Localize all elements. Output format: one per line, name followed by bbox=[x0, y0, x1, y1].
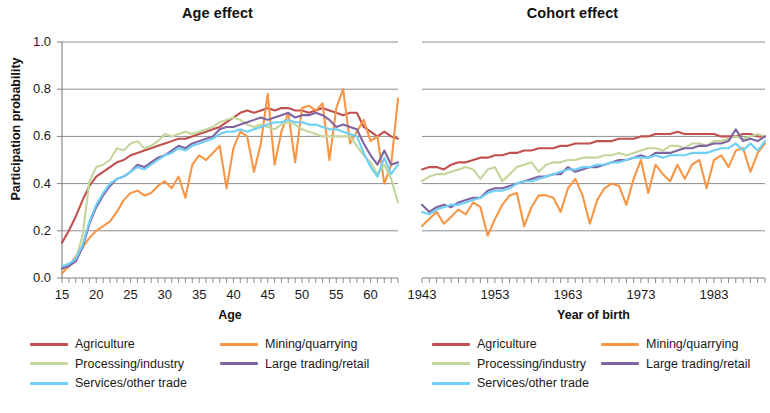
legend-age-effect: AgricultureMining/quarryingProcessing/in… bbox=[30, 338, 410, 390]
figure-root: Age effect Participation probability 0.0… bbox=[0, 0, 770, 413]
series-line-services-other-trade bbox=[62, 120, 398, 266]
chart-panel-cohort-effect: Cohort effect 19431953196319731983 Year … bbox=[405, 0, 770, 330]
x-axis-title-age: Age bbox=[62, 308, 398, 322]
legend-swatch-icon bbox=[30, 343, 68, 346]
legend-swatch-icon bbox=[601, 343, 639, 346]
legend-item-cohort[interactable]: Mining/quarrying bbox=[601, 338, 770, 351]
legend-label: Mining/quarrying bbox=[646, 338, 738, 351]
legend-cohort-effect: AgricultureMining/quarryingProcessing/in… bbox=[432, 338, 770, 390]
legend-swatch-icon bbox=[601, 362, 639, 365]
plot-area-age-effect bbox=[0, 0, 405, 330]
legend-item-cohort[interactable]: Processing/industry bbox=[432, 358, 601, 371]
legend-label: Services/other trade bbox=[477, 377, 589, 390]
legend-label: Processing/industry bbox=[477, 358, 586, 371]
legend-swatch-icon bbox=[432, 362, 470, 365]
legend-label: Processing/industry bbox=[75, 358, 184, 371]
legend-swatch-icon bbox=[220, 362, 258, 365]
chart-panel-age-effect: Age effect Participation probability 0.0… bbox=[0, 0, 405, 330]
legend-label: Mining/quarrying bbox=[265, 338, 357, 351]
legend-label: Large trading/retail bbox=[646, 358, 750, 371]
legend-item-age[interactable]: Large trading/retail bbox=[220, 358, 410, 371]
legend-item-cohort[interactable]: Services/other trade bbox=[432, 377, 601, 390]
legend-item-cohort[interactable]: Large trading/retail bbox=[601, 358, 770, 371]
legend-item-age[interactable]: Mining/quarrying bbox=[220, 338, 410, 351]
series-line-processing-industry bbox=[62, 118, 398, 269]
legend-item-age[interactable]: Agriculture bbox=[30, 338, 220, 351]
x-axis-title-cohort: Year of birth bbox=[422, 308, 765, 322]
legend-label: Agriculture bbox=[477, 338, 537, 351]
legend-swatch-icon bbox=[220, 343, 258, 346]
legend-item-cohort[interactable]: Agriculture bbox=[432, 338, 601, 351]
legend-swatch-icon bbox=[30, 382, 68, 385]
series-line-processing-industry bbox=[422, 134, 765, 181]
plot-area-cohort-effect bbox=[405, 0, 770, 330]
legend-swatch-icon bbox=[432, 382, 470, 385]
legend-label: Services/other trade bbox=[75, 377, 187, 390]
legend-label: Large trading/retail bbox=[265, 358, 369, 371]
legend-item-age[interactable]: Services/other trade bbox=[30, 377, 220, 390]
legend-swatch-icon bbox=[30, 362, 68, 365]
legend-swatch-icon bbox=[432, 343, 470, 346]
legend-label: Agriculture bbox=[75, 338, 135, 351]
legend-item-age[interactable]: Processing/industry bbox=[30, 358, 220, 371]
